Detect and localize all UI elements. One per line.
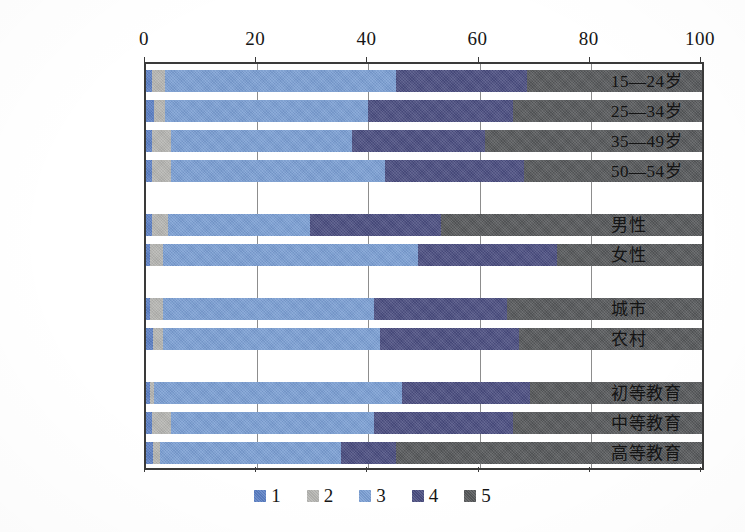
bar-segment-series-4 [341,442,397,464]
bar-segment-series-3 [171,160,385,182]
bar-segment-series-3 [160,442,341,464]
legend-label: 4 [429,486,439,505]
x-tick-mark [700,57,701,62]
bar-segment-series-2 [153,442,160,464]
bar-segment-series-2 [152,214,169,236]
bar-segment-series-3 [165,70,396,92]
x-tick-mark [589,467,590,472]
legend-item-4[interactable]: 4 [412,486,439,505]
x-tick-label: 100 [685,28,715,50]
category-label: 高等教育 [611,439,745,464]
legend-swatch-icon-1 [254,490,266,502]
gridline [480,64,481,468]
legend-item-3[interactable]: 3 [359,486,386,505]
x-tick-label: 80 [579,28,599,50]
category-label: 男性 [611,211,745,236]
bar-segment-series-2 [154,100,165,122]
legend-label: 3 [376,486,386,505]
gridline [257,64,258,468]
bar-segment-series-4 [374,298,507,320]
bar-segment-series-2 [152,70,166,92]
legend-swatch-icon-2 [307,490,319,502]
bar-segment-series-1 [146,100,154,122]
legend-swatch-icon-3 [359,490,371,502]
x-tick-mark [478,467,479,472]
category-label: 农村 [611,325,745,350]
bar-segment-series-1 [146,328,153,350]
x-tick-mark [255,57,256,62]
category-label: 25—34岁 [611,97,745,122]
bar-segment-series-2 [152,160,171,182]
category-label: 15—24岁 [611,67,745,92]
x-tick-label: 40 [356,28,376,50]
bar-segment-series-2 [152,412,171,434]
legend-label: 5 [481,486,491,505]
category-label: 35—49岁 [611,127,745,152]
bar-segment-series-4 [418,244,557,266]
bar-segment-series-2 [150,244,162,266]
x-tick-label: 0 [139,28,149,50]
x-tick-mark [366,57,367,62]
category-label: 50—54岁 [611,157,745,182]
category-label: 初等教育 [611,379,745,404]
bar-segment-series-4 [310,214,441,236]
bar-segment-series-4 [352,130,485,152]
x-tick-label: 60 [468,28,488,50]
bar-segment-series-4 [374,412,513,434]
bar-segment-series-3 [163,298,374,320]
x-tick-mark [589,57,590,62]
bar-segment-series-4 [368,100,513,122]
bar-segment-series-4 [402,382,530,404]
stacked-bar-chart-figure: 020406080100 15—24岁25—34岁35—49岁50—54岁男性女… [0,0,745,532]
x-tick-mark [478,57,479,62]
x-tick-mark [700,467,701,472]
gridline [368,64,369,468]
bar-segment-series-2 [150,298,162,320]
legend-item-2[interactable]: 2 [307,486,334,505]
x-tick-mark [255,467,256,472]
category-label: 中等教育 [611,409,745,434]
legend-label: 2 [324,486,334,505]
legend-item-1[interactable]: 1 [254,486,281,505]
bar-segment-series-3 [154,382,401,404]
x-tick-label: 20 [245,28,265,50]
bar-segment-series-2 [153,328,163,350]
bar-segment-series-4 [396,70,527,92]
x-tick-mark [144,467,145,472]
bar-segment-series-3 [165,100,368,122]
legend-label: 1 [271,486,281,505]
chart-legend: 12345 [0,486,745,505]
legend-swatch-icon-5 [464,490,476,502]
category-label: 城市 [611,295,745,320]
gridline [591,64,592,468]
x-tick-mark [144,57,145,62]
x-tick-mark [366,467,367,472]
bar-segment-series-1 [146,442,153,464]
bar-segment-series-3 [168,214,310,236]
legend-swatch-icon-4 [412,490,424,502]
bar-segment-series-3 [163,328,380,350]
bar-segment-series-3 [171,130,352,152]
legend-item-5[interactable]: 5 [464,486,491,505]
category-label: 女性 [611,241,745,266]
bar-segment-series-3 [163,244,419,266]
bar-segment-series-2 [152,130,171,152]
bar-segment-series-4 [380,328,519,350]
bar-segment-series-3 [171,412,374,434]
bar-segment-series-4 [385,160,524,182]
